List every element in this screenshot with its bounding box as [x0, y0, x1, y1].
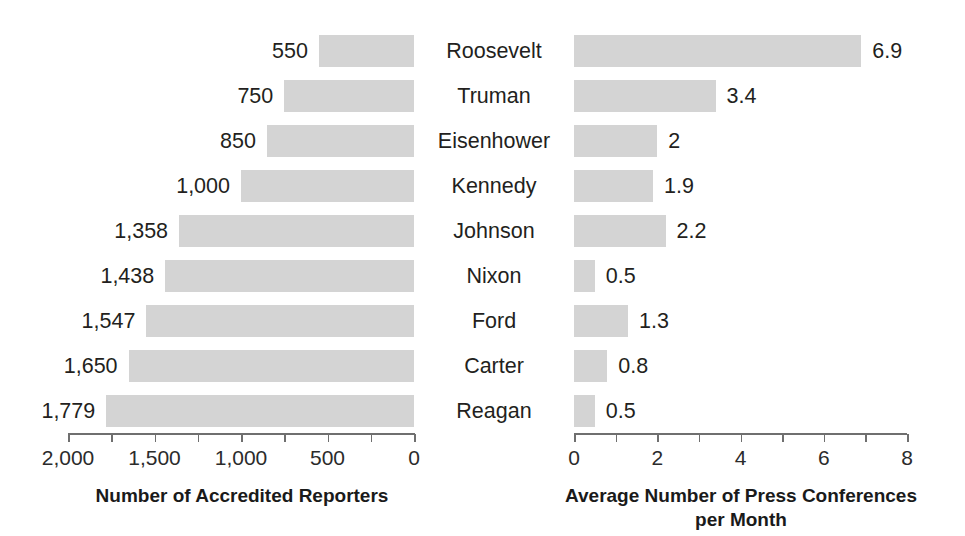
chart-row: 1,358Johnson2.2 [0, 209, 965, 254]
left-panel-row: 1,000 [0, 164, 414, 209]
right-panel-row: 2 [574, 119, 965, 164]
left-panel-row: 850 [0, 119, 414, 164]
left-panel-row: 1,547 [0, 299, 414, 344]
category-label: Eisenhower [414, 125, 574, 157]
left-axis-tick [198, 434, 200, 442]
bar-left [146, 305, 414, 337]
category-label: Nixon [414, 260, 574, 292]
left-axis-tick [328, 434, 330, 442]
left-axis-tick [155, 434, 157, 442]
right-axis-tick [865, 434, 867, 442]
category-label: Truman [414, 80, 574, 112]
bar-value-label-right: 0.5 [595, 395, 636, 427]
right-panel-row: 0.5 [574, 254, 965, 299]
bar-value-label-left: 1,650 [64, 350, 129, 382]
left-panel-row: 1,779 [0, 389, 414, 434]
bar-left [319, 35, 414, 67]
bar-value-label-right: 6.9 [861, 35, 902, 67]
bar-value-label-left: 1,547 [82, 305, 147, 337]
left-panel-row: 1,358 [0, 209, 414, 254]
category-label: Carter [414, 350, 574, 382]
bar-right [574, 305, 628, 337]
chart-row: 850Eisenhower2 [0, 119, 965, 164]
category-label: Kennedy [414, 170, 574, 202]
bar-right [574, 395, 595, 427]
bar-value-label-right: 3.4 [716, 80, 757, 112]
bar-value-label-left: 1,358 [114, 215, 179, 247]
right-axis-tick-label: 8 [901, 446, 913, 470]
bar-value-label-right: 2.2 [666, 215, 707, 247]
bar-left [284, 80, 414, 112]
right-axis-tick-label: 0 [568, 446, 580, 470]
right-axis-tick [782, 434, 784, 442]
chart-rows: 550Roosevelt6.9750Truman3.4850Eisenhower… [0, 29, 965, 434]
bar-value-label-right: 0.8 [607, 350, 648, 382]
left-axis-tick-label: 0 [408, 446, 420, 470]
bar-left [165, 260, 414, 292]
left-panel-row: 1,438 [0, 254, 414, 299]
bar-value-label-left: 1,000 [176, 170, 241, 202]
right-axis-tick [907, 434, 909, 442]
left-axis-tick [111, 434, 113, 442]
right-panel-row: 1.9 [574, 164, 965, 209]
right-panel-row: 0.5 [574, 389, 965, 434]
bar-value-label-right: 1.3 [628, 305, 669, 337]
chart-row: 750Truman3.4 [0, 74, 965, 119]
right-axis-tick [699, 434, 701, 442]
bar-value-label-left: 750 [237, 80, 284, 112]
right-panel-row: 1.3 [574, 299, 965, 344]
right-axis-title: Average Number of Press Conferences per … [560, 484, 922, 533]
category-label: Reagan [414, 395, 574, 427]
bar-value-label-left: 1,779 [41, 395, 106, 427]
right-axis-tick-label: 6 [818, 446, 830, 470]
bar-right [574, 215, 666, 247]
right-axis-tick-label: 4 [735, 446, 747, 470]
bar-left [106, 395, 414, 427]
chart-row: 550Roosevelt6.9 [0, 29, 965, 74]
right-panel-row: 0.8 [574, 344, 965, 389]
right-panel-row: 2.2 [574, 209, 965, 254]
category-label: Johnson [414, 215, 574, 247]
bar-right [574, 260, 595, 292]
left-axis-title: Number of Accredited Reporters [40, 484, 444, 508]
chart-row: 1,438Nixon0.5 [0, 254, 965, 299]
right-axis-tick-label: 2 [651, 446, 663, 470]
right-panel-row: 3.4 [574, 74, 965, 119]
bar-left [129, 350, 414, 382]
left-axis-tick-label: 1,500 [128, 446, 181, 470]
right-panel-row: 6.9 [574, 29, 965, 74]
bar-left [179, 215, 414, 247]
category-label: Ford [414, 305, 574, 337]
bar-value-label-right: 1.9 [653, 170, 694, 202]
left-axis-tick-label: 2,000 [42, 446, 95, 470]
bar-value-label-right: 0.5 [595, 260, 636, 292]
bar-right [574, 170, 653, 202]
right-axis-tick [824, 434, 826, 442]
chart-row: 1,547Ford1.3 [0, 299, 965, 344]
right-axis-tick [574, 434, 576, 442]
left-axis-tick [284, 434, 286, 442]
chart-row: 1,000Kennedy1.9 [0, 164, 965, 209]
chart-row: 1,650Carter0.8 [0, 344, 965, 389]
left-panel-row: 750 [0, 74, 414, 119]
right-axis-tick [616, 434, 618, 442]
bar-right [574, 350, 607, 382]
left-axis-tick [241, 434, 243, 442]
left-axis-tick [371, 434, 373, 442]
left-axis-tick-label: 500 [310, 446, 345, 470]
right-axis-tick [657, 434, 659, 442]
left-panel-row: 550 [0, 29, 414, 74]
butterfly-chart-figure: 550Roosevelt6.9750Truman3.4850Eisenhower… [0, 0, 965, 536]
bar-value-label-left: 850 [220, 125, 267, 157]
bar-right [574, 80, 716, 112]
left-axis-tick [414, 434, 416, 442]
bar-value-label-right: 2 [657, 125, 680, 157]
left-axis-tick [68, 434, 70, 442]
category-label: Roosevelt [414, 35, 574, 67]
right-axis-tick [741, 434, 743, 442]
bar-value-label-left: 550 [272, 35, 319, 67]
bar-right [574, 125, 657, 157]
chart-row: 1,779Reagan0.5 [0, 389, 965, 434]
bar-right [574, 35, 861, 67]
bar-left [241, 170, 414, 202]
